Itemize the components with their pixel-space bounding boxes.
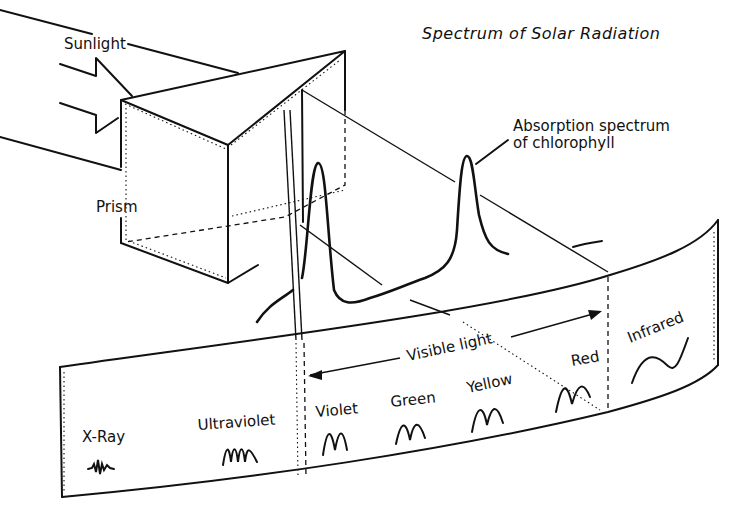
ultraviolet-wave-icon bbox=[223, 449, 257, 465]
absorption-label-line1: Absorption spectrum bbox=[513, 117, 670, 135]
band-label-green: Green bbox=[390, 388, 437, 411]
diagram-title: Spectrum of Solar Radiation bbox=[422, 24, 660, 43]
xray-wave-icon bbox=[88, 460, 114, 474]
band-label-infrared: Infrared bbox=[625, 308, 687, 347]
visible-light-label: Visible light bbox=[405, 329, 494, 365]
sunlight-rays bbox=[0, 10, 238, 170]
band-label-violet: Violet bbox=[315, 399, 359, 421]
chlorophyll-absorption-curve bbox=[257, 156, 508, 322]
absorption-leader-line bbox=[476, 140, 508, 164]
spectrum-strip bbox=[60, 220, 718, 497]
prism-label: Prism bbox=[96, 198, 138, 216]
red-wave-icon bbox=[556, 387, 590, 412]
solar-spectrum-diagram: Spectrum of Solar Radiation Sunlight Pri… bbox=[0, 0, 736, 514]
band-label-red: Red bbox=[570, 347, 601, 370]
infrared-wave-icon bbox=[632, 338, 688, 383]
violet-wave-icon bbox=[323, 434, 347, 456]
sunlight-label: Sunlight bbox=[64, 35, 126, 53]
yellow-wave-icon bbox=[472, 409, 503, 432]
band-label-xray: X-Ray bbox=[82, 428, 125, 446]
stray-stroke bbox=[573, 241, 602, 247]
prism bbox=[121, 51, 345, 283]
absorption-label-line2: of chlorophyll bbox=[513, 134, 615, 152]
band-label-ultraviolet: Ultraviolet bbox=[197, 411, 276, 434]
green-wave-icon bbox=[396, 425, 425, 444]
band-label-yellow: Yellow bbox=[464, 370, 514, 397]
